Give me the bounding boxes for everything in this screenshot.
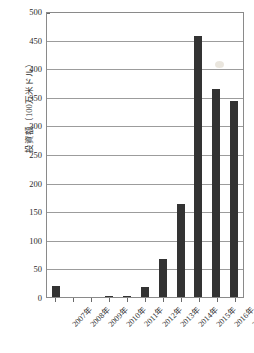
- y-axis-tick-label: 200: [29, 179, 42, 188]
- y-axis-tick-label: 300: [29, 122, 42, 131]
- bar-slot: [190, 13, 208, 297]
- bar-slot: [154, 13, 172, 297]
- plot-area: [46, 12, 244, 298]
- bar-slot: [172, 13, 190, 297]
- y-axis-tick-label: 450: [29, 36, 42, 45]
- y-axis-tick-label: 500: [29, 8, 42, 17]
- bar-slot: [136, 13, 154, 297]
- y-axis-tick-label: 0: [38, 294, 42, 303]
- bar: [52, 286, 60, 297]
- bar: [212, 89, 220, 297]
- bar: [194, 36, 202, 297]
- y-axis-tick-label: 50: [34, 265, 43, 274]
- y-axis-tick-label: 250: [29, 151, 42, 160]
- bar: [230, 101, 238, 297]
- x-axis-tick-labels: 2007年2008年2009年2010年2011年2012年2013年2014年…: [46, 302, 244, 348]
- bar-slot: [65, 13, 83, 297]
- bar-slot: [100, 13, 118, 297]
- bar: [141, 287, 149, 297]
- bar-slot: [118, 13, 136, 297]
- bar-slot: [83, 13, 101, 297]
- y-axis-tick-labels: 500450400350300250200150100500: [14, 12, 42, 298]
- bar-slot: [47, 13, 65, 297]
- y-axis-tick-label: 350: [29, 94, 42, 103]
- bar-slot: [225, 13, 243, 297]
- bar-series: [47, 13, 243, 297]
- bar-chart: 投資額（100万米ドル） 500450400350300250200150100…: [0, 0, 254, 353]
- bar: [105, 296, 113, 297]
- y-axis-tick-label: 400: [29, 65, 42, 74]
- bar-slot: [207, 13, 225, 297]
- y-axis-tick-label: 100: [29, 237, 42, 246]
- y-axis-tick-label: 150: [29, 208, 42, 217]
- bar: [123, 296, 131, 297]
- bar: [159, 259, 167, 297]
- bar: [177, 204, 185, 297]
